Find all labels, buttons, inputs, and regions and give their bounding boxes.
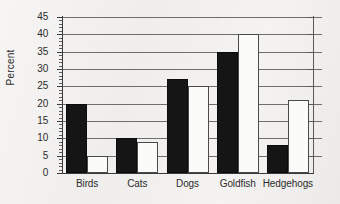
bar-light (137, 142, 158, 173)
bar-dark (267, 145, 288, 173)
bar-dark (116, 138, 137, 173)
y-tick-label: 30 (37, 64, 48, 74)
y-tick-label: 10 (37, 133, 48, 143)
bar-chart-figure: Percent 454035302520151050 BirdsCatsDogs… (0, 0, 340, 204)
y-tick-label: 25 (37, 81, 48, 91)
bar-dark (217, 52, 238, 173)
x-axis-line (62, 173, 314, 174)
y-axis-line-right (313, 16, 314, 174)
y-tick-label: 5 (43, 151, 48, 161)
bar-light (87, 156, 108, 173)
y-tick-label: 15 (37, 116, 48, 126)
bar-light (188, 86, 209, 173)
bar-dark (66, 104, 87, 173)
bar-light (238, 34, 259, 173)
y-tick-label: 40 (37, 29, 48, 39)
plot-area (62, 17, 313, 173)
y-tick-label: 20 (37, 99, 48, 109)
y-tick-label: 45 (37, 12, 48, 22)
y-axis-title: Percent (5, 20, 16, 116)
bar-light (288, 100, 309, 173)
y-tick-label: 0 (43, 168, 48, 178)
bar-dark (167, 79, 188, 173)
x-tick-label: Hedgehogs (248, 178, 328, 189)
y-tick-label: 35 (37, 47, 48, 57)
